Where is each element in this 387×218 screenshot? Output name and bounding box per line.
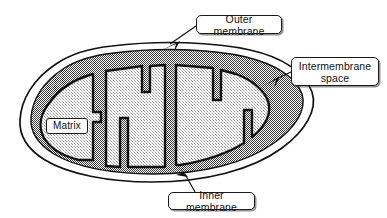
label-inner-membrane: Inner membrane: [168, 192, 255, 210]
label-outer-membrane: Outer membrane: [196, 15, 282, 34]
mitochondrion-diagram: [0, 0, 387, 218]
label-intermembrane-space: Intermembrane space: [291, 57, 379, 86]
inner-membrane-cristae-second: [106, 65, 165, 167]
label-matrix: Matrix: [46, 118, 88, 134]
